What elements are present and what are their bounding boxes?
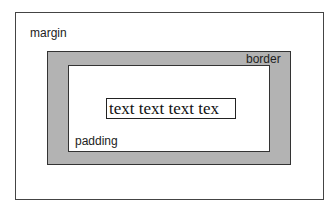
content-box: text text text tex [106, 98, 236, 119]
padding-label: padding [75, 134, 118, 148]
border-label: border [246, 52, 281, 66]
margin-label: margin [30, 26, 67, 40]
